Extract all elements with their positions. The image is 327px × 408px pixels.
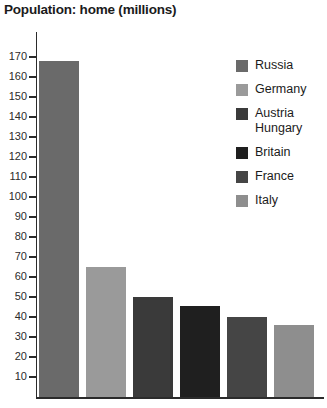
y-axis-tick-label: 20 bbox=[15, 349, 27, 364]
y-axis-tick-label: 10 bbox=[15, 369, 27, 384]
y-axis-tick-mark bbox=[29, 136, 36, 137]
y-axis-tick-label: 40 bbox=[15, 309, 27, 324]
y-axis-tick-label: 70 bbox=[15, 249, 27, 264]
bar-austria-hungary bbox=[133, 297, 173, 397]
y-axis-tick-label: 160 bbox=[9, 69, 27, 84]
bar-italy bbox=[274, 325, 314, 397]
y-axis-tick-label: 130 bbox=[9, 129, 27, 144]
legend-item-italy[interactable]: Italy bbox=[236, 193, 324, 208]
y-axis-tick-mark bbox=[29, 256, 36, 257]
y-axis-tick-label: 120 bbox=[9, 149, 27, 164]
y-axis-tick-mark bbox=[29, 96, 36, 97]
legend-item-label: Russia bbox=[255, 58, 293, 73]
chart-page: Population: home (millions) 170160150140… bbox=[0, 0, 327, 408]
bar-germany bbox=[86, 267, 126, 397]
page-title: Population: home (millions) bbox=[4, 2, 176, 17]
x-axis-line bbox=[36, 397, 324, 399]
legend-item-label: France bbox=[255, 169, 294, 184]
legend-item-britain[interactable]: Britain bbox=[236, 145, 324, 160]
legend-item-russia[interactable]: Russia bbox=[236, 58, 324, 73]
legend: RussiaGermanyAustria HungaryBritainFranc… bbox=[236, 58, 324, 217]
y-axis-line bbox=[36, 32, 37, 399]
legend-item-label: Germany bbox=[255, 82, 306, 97]
legend-swatch-icon bbox=[236, 171, 248, 183]
y-axis-tick-mark bbox=[29, 196, 36, 197]
legend-swatch-icon bbox=[236, 60, 248, 72]
legend-item-france[interactable]: France bbox=[236, 169, 324, 184]
y-axis-tick-label: 150 bbox=[9, 89, 27, 104]
legend-swatch-icon bbox=[236, 147, 248, 159]
legend-item-label: Britain bbox=[255, 145, 290, 160]
y-axis-tick-mark bbox=[29, 296, 36, 297]
y-axis-tick-mark bbox=[29, 336, 36, 337]
y-axis-tick-mark bbox=[29, 216, 36, 217]
y-axis-tick-label: 80 bbox=[15, 229, 27, 244]
y-axis-tick-label: 110 bbox=[9, 169, 27, 184]
legend-swatch-icon bbox=[236, 108, 248, 120]
y-axis-tick-mark bbox=[29, 316, 36, 317]
y-axis-tick-label: 50 bbox=[15, 289, 27, 304]
y-axis-tick-mark bbox=[29, 236, 36, 237]
y-axis-tick-label: 100 bbox=[9, 189, 27, 204]
legend-swatch-icon bbox=[236, 84, 248, 96]
y-axis-tick-mark bbox=[29, 156, 36, 157]
legend-item-label: Italy bbox=[255, 193, 278, 208]
legend-item-germany[interactable]: Germany bbox=[236, 82, 324, 97]
y-axis-tick-mark bbox=[29, 276, 36, 277]
y-axis-tick-mark bbox=[29, 76, 36, 77]
y-axis-tick-label: 140 bbox=[9, 109, 27, 124]
y-axis-tick-mark bbox=[29, 176, 36, 177]
legend-swatch-icon bbox=[236, 195, 248, 207]
y-axis-tick-label: 170 bbox=[9, 49, 27, 64]
y-axis-tick-label: 90 bbox=[15, 209, 27, 224]
bar-russia bbox=[39, 61, 79, 397]
y-axis-tick-mark bbox=[29, 56, 36, 57]
y-axis-tick-mark bbox=[29, 356, 36, 357]
legend-item-austria-hungary[interactable]: Austria Hungary bbox=[236, 106, 324, 136]
legend-item-label: Austria Hungary bbox=[255, 106, 302, 136]
y-axis-tick-mark bbox=[29, 376, 36, 377]
y-axis-tick-label: 60 bbox=[15, 269, 27, 284]
bar-france bbox=[227, 317, 267, 397]
y-axis-tick-mark bbox=[29, 116, 36, 117]
y-axis-tick-label: 30 bbox=[15, 329, 27, 344]
bar-britain bbox=[180, 306, 220, 397]
